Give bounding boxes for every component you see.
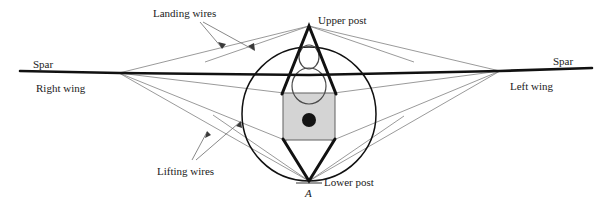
- label-spar-right: Spar: [553, 55, 574, 67]
- pilot-head-outline: [299, 45, 319, 69]
- label-landing-wires: Landing wires: [153, 7, 216, 19]
- landing-wire-right-inner: [309, 26, 414, 62]
- strut-wire-right-lower: [331, 71, 500, 141]
- label-lower-post: Lower post: [324, 176, 374, 188]
- landing-wires-leader-1: [200, 22, 222, 48]
- lower-post: [283, 139, 335, 181]
- label-point-a: A: [304, 187, 312, 199]
- lifting-wire-right-outer: [309, 71, 500, 181]
- diagram-canvas: Landing wires Upper post Spar Spar Right…: [0, 0, 612, 199]
- landing-wire-left-outer: [119, 26, 309, 73]
- lifting-wires-leader-1: [192, 132, 207, 160]
- label-right-wing: Right wing: [36, 82, 86, 94]
- center-of-mass-dot: [302, 113, 316, 127]
- label-left-wing: Left wing: [510, 80, 554, 92]
- landing-wire-right-outer: [309, 26, 500, 71]
- label-lifting-wires: Lifting wires: [157, 165, 214, 177]
- leader-lines-group: [192, 22, 254, 160]
- leader-arrowheads-group: [205, 42, 255, 138]
- upper-post: [282, 26, 336, 94]
- label-upper-post: Upper post: [318, 14, 367, 26]
- figure-container: Landing wires Upper post Spar Spar Right…: [0, 0, 612, 199]
- label-spar-left: Spar: [33, 58, 54, 70]
